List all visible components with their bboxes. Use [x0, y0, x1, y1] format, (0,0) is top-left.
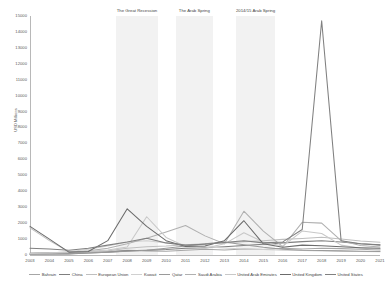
legend-swatch — [159, 274, 170, 275]
legend-swatch — [131, 274, 142, 275]
series-plot — [0, 0, 392, 291]
legend-label: Bahrain — [42, 272, 56, 277]
legend-item[interactable]: Kuwait — [131, 272, 156, 277]
legend-label: United Arab Emirates — [237, 272, 277, 277]
legend-item[interactable]: United Kingdom — [280, 272, 322, 277]
legend-swatch — [59, 274, 70, 275]
legend-swatch — [29, 274, 40, 275]
series-line — [30, 21, 380, 250]
legend-item[interactable]: European Union — [86, 272, 129, 277]
legend-swatch — [280, 274, 291, 275]
legend-label: China — [72, 272, 83, 277]
legend-label: Qatar — [172, 272, 182, 277]
legend-swatch — [86, 274, 97, 275]
legend-label: European Union — [98, 272, 128, 277]
legend-label: Saudi Arabia — [198, 272, 222, 277]
legend-swatch — [225, 274, 236, 275]
legend-swatch — [325, 274, 336, 275]
legend-swatch — [185, 274, 196, 275]
legend-item[interactable]: Saudi Arabia — [185, 272, 221, 277]
legend-item[interactable]: Bahrain — [29, 272, 56, 277]
chart-container: The Great RecessionThe Arab Spring2014/1… — [0, 0, 392, 291]
legend-label: United States — [338, 272, 363, 277]
chart-legend: BahrainChinaEuropean UnionKuwaitQatarSau… — [0, 272, 392, 277]
series-line — [30, 209, 380, 252]
legend-item[interactable]: China — [59, 272, 82, 277]
legend-label: United Kingdom — [292, 272, 322, 277]
legend-item[interactable]: United States — [325, 272, 363, 277]
legend-item[interactable]: United Arab Emirates — [225, 272, 277, 277]
legend-item[interactable]: Qatar — [159, 272, 182, 277]
legend-label: Kuwait — [144, 272, 157, 277]
